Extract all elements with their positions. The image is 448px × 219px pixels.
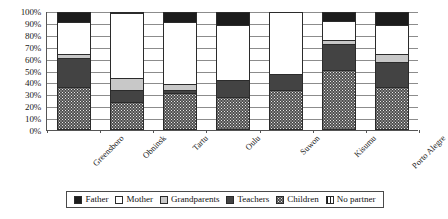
segment-grandparents xyxy=(376,55,408,63)
segment-children xyxy=(376,88,408,129)
y-axis-tick-label: 30% xyxy=(25,91,41,100)
segment-children xyxy=(323,71,355,129)
x-axis-label: Porto Alegre xyxy=(410,133,448,171)
segment-mother xyxy=(164,23,196,84)
legend-label: Grandparents xyxy=(171,195,219,204)
segment-father xyxy=(164,13,196,23)
x-axis-label: Kisumu xyxy=(352,133,378,159)
segment-grandparents xyxy=(111,79,143,91)
x-axis-label: Suwon xyxy=(298,133,322,157)
bar-tartu[interactable] xyxy=(163,12,197,130)
segment-mother xyxy=(376,26,408,55)
father-swatch xyxy=(74,196,82,204)
grandparents-swatch xyxy=(160,196,168,204)
segment-mother xyxy=(58,23,90,54)
x-axis-label: Tartu xyxy=(190,133,210,153)
x-axis-label: Greensboro xyxy=(90,133,125,168)
chart-legend: FatherMotherGrandparentsTeachersChildren… xyxy=(66,191,384,208)
y-axis-tick-label: 10% xyxy=(25,115,41,124)
y-axis-tick-label: 70% xyxy=(25,43,41,52)
segment-mother xyxy=(217,26,249,82)
legend-item-grandparents[interactable]: Grandparents xyxy=(160,195,219,204)
legend-label: Father xyxy=(85,195,108,204)
y-axis-tick-label: 20% xyxy=(25,103,41,112)
y-axis-tick-label: 0% xyxy=(29,127,41,136)
segment-children xyxy=(270,91,302,129)
segment-father xyxy=(217,13,249,26)
segment-father xyxy=(376,13,408,26)
y-axis-tick-label: 40% xyxy=(25,79,41,88)
legend-item-father[interactable]: Father xyxy=(74,195,108,204)
no-partner-swatch xyxy=(326,196,334,204)
children-swatch xyxy=(276,196,284,204)
bar-greensboro[interactable] xyxy=(57,12,91,130)
legend-label: Children xyxy=(287,195,319,204)
segment-children xyxy=(164,94,196,129)
segment-mother xyxy=(111,14,143,79)
bar-porto-alegre[interactable] xyxy=(375,12,409,130)
x-axis-label: Oulu xyxy=(243,133,262,152)
mother-swatch xyxy=(115,196,123,204)
bar-suwon[interactable] xyxy=(269,12,303,130)
y-axis-tick-label: 100% xyxy=(21,8,41,17)
segment-mother xyxy=(270,13,302,74)
segment-children xyxy=(111,103,143,129)
segment-mother xyxy=(323,22,355,41)
segment-father xyxy=(323,13,355,22)
segment-children xyxy=(217,98,249,129)
legend-label: Mother xyxy=(126,195,153,204)
x-axis-labels: GreensboroObninskTartuOuluSuwonKisumuPor… xyxy=(46,133,418,183)
y-axis-tick-label: 90% xyxy=(25,19,41,28)
segment-teachers xyxy=(323,45,355,71)
legend-item-no-partner[interactable]: No partner xyxy=(326,195,376,204)
y-axis-labels: 0%10%20%30%40%50%60%70%80%90%100% xyxy=(0,0,44,182)
segment-teachers xyxy=(376,63,408,89)
legend-item-children[interactable]: Children xyxy=(276,195,319,204)
legend-item-teachers[interactable]: Teachers xyxy=(226,195,269,204)
bar-group xyxy=(47,12,418,130)
segment-teachers xyxy=(111,91,143,104)
y-axis-tick-label: 60% xyxy=(25,55,41,64)
bar-oulu[interactable] xyxy=(216,12,250,130)
bar-kisumu[interactable] xyxy=(322,12,356,130)
x-axis-label: Obninsk xyxy=(140,133,167,160)
teachers-swatch xyxy=(226,196,234,204)
segment-teachers xyxy=(58,59,90,88)
legend-label: No partner xyxy=(337,195,376,204)
segment-teachers xyxy=(217,81,249,97)
plot-wrapper: 0%10%20%30%40%50%60%70%80%90%100% Greens… xyxy=(0,0,442,182)
segment-teachers xyxy=(270,75,302,91)
plot-area xyxy=(46,12,418,131)
segment-children xyxy=(58,88,90,129)
y-axis-tick-label: 50% xyxy=(25,67,41,76)
y-axis-tick-label: 80% xyxy=(25,31,41,40)
x-axis-tickmark xyxy=(419,130,420,133)
bar-obninsk[interactable] xyxy=(110,12,144,130)
segment-father xyxy=(58,13,90,23)
legend-label: Teachers xyxy=(237,195,269,204)
legend-item-mother[interactable]: Mother xyxy=(115,195,153,204)
